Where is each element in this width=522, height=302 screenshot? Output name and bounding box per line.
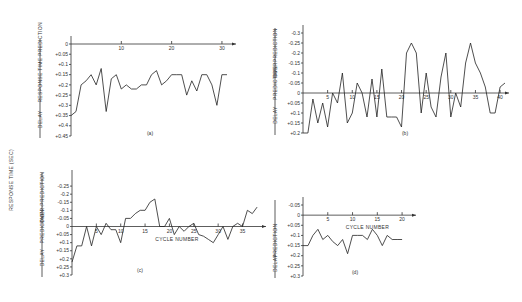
y-tick-label: -0.05: [289, 202, 301, 208]
shared-y-label: RESPONSE TIME (SEC): [8, 149, 14, 211]
y-tick-label: 0: [65, 41, 68, 47]
x-tick-label: 10: [119, 45, 125, 51]
panel-caption: (c): [137, 267, 143, 273]
y-tick-label: +0.1: [59, 239, 69, 245]
y-tick-label: +0.25: [55, 92, 68, 98]
region-label: PREDICTION: [39, 209, 45, 243]
x-axis-label: CYCLE NUMBER: [155, 236, 198, 242]
y-tick-label: +0.3: [58, 102, 68, 108]
region-label: DELAY: [272, 106, 278, 124]
y-tick-label: +0.05: [287, 100, 300, 106]
x-tick-label: 5: [326, 94, 329, 100]
y-tick-label: 0: [66, 223, 69, 229]
y-tick-label: -0.25: [289, 40, 301, 46]
y-tick-label: +0.2: [58, 82, 68, 88]
y-tick-label: +0.15: [56, 247, 69, 253]
y-tick-label: +0.2: [59, 256, 69, 262]
y-tick-label: +0.05: [55, 51, 68, 57]
panel-caption: (a): [147, 130, 153, 136]
y-tick-label: +0.2: [290, 252, 300, 258]
x-axis-arrow: [505, 92, 509, 95]
x-tick-label: 35: [473, 94, 479, 100]
region-label: DELAY: [272, 254, 278, 272]
y-tick-label: -0.15: [289, 60, 301, 66]
series-line-b: [303, 43, 505, 133]
y-tick-label: +0.25: [56, 264, 69, 270]
series-line-a: [71, 69, 227, 116]
y-tick-label: -0.2: [60, 191, 69, 197]
y-tick-label: +0.3: [59, 272, 69, 278]
y-tick-label: -0.1: [291, 70, 300, 76]
x-axis-label: CYCLE NUMBER: [346, 224, 389, 230]
y-tick-label: +0.1: [290, 110, 300, 116]
y-tick-label: +0.1: [58, 61, 68, 67]
y-tick-label: -0.15: [58, 199, 70, 205]
y-tick-label: -0.05: [58, 215, 70, 221]
y-tick-label: +0.45: [55, 133, 68, 139]
y-tick-label: 0: [297, 90, 300, 96]
x-tick-label: 25: [423, 94, 429, 100]
series-line-c: [72, 199, 257, 262]
y-tick-label: -0.1: [60, 207, 69, 213]
y-tick-label: +0.4: [58, 122, 68, 128]
x-axis-arrow: [412, 214, 416, 217]
panel-caption: (b): [402, 130, 408, 136]
region-label: RESPONSE TIME PREDICTION: [37, 22, 43, 103]
panel-d: -0.050+0.05+0.1+0.15+0.2+0.25+0.35101520…: [272, 197, 416, 279]
y-tick-label: +0.3: [290, 273, 300, 279]
y-tick-label: +0.25: [287, 263, 300, 269]
x-tick-label: 15: [142, 228, 148, 234]
y-tick-label: +0.15: [287, 120, 300, 126]
x-axis-arrow: [262, 225, 266, 228]
x-tick-label: 15: [375, 216, 381, 222]
figure-canvas: RESPONSE TIME (SEC) 0+0.05+0.1+0.15+0.2+…: [0, 0, 522, 302]
y-tick-label: +0.15: [287, 242, 300, 248]
x-tick-label: 5: [326, 216, 329, 222]
region-label: PREDICTION: [272, 223, 278, 257]
y-tick-label: -0.2: [291, 50, 300, 56]
region-label: PREDICTION: [272, 66, 278, 100]
x-tick-label: 10: [350, 216, 356, 222]
x-axis-arrow: [232, 43, 236, 46]
x-tick-label: 35: [240, 228, 246, 234]
y-tick-label: +0.1: [290, 232, 300, 238]
x-tick-label: 20: [167, 228, 173, 234]
x-tick-label: 20: [399, 216, 405, 222]
y-tick-label: -0.25: [58, 183, 70, 189]
y-tick-label: +0.15: [55, 71, 68, 77]
x-tick-label: 30: [219, 45, 225, 51]
panel-c: -0.25-0.2-0.15-0.1-0.050+0.05+0.1+0.15+0…: [39, 170, 266, 278]
panel-b: -0.3-0.25-0.2-0.15-0.1-0.050+0.05+0.1+0.…: [272, 25, 509, 136]
y-tick-label: -0.05: [289, 80, 301, 86]
panel-caption: (d): [352, 269, 358, 275]
y-tick-label: +0.05: [287, 222, 300, 228]
series-line-d: [303, 229, 402, 253]
y-tick-label: +0.05: [56, 231, 69, 237]
y-tick-label: -0.3: [291, 30, 300, 36]
y-tick-label: +0.35: [55, 112, 68, 118]
y-tick-label: 0: [297, 212, 300, 218]
y-tick-label: +0.2: [290, 130, 300, 136]
region-label: DELAY: [39, 248, 45, 266]
region-label: DELAY: [37, 110, 43, 128]
x-tick-label: 20: [169, 45, 175, 51]
panel-a: 0+0.05+0.1+0.15+0.2+0.25+0.3+0.35+0.4+0.…: [37, 22, 236, 139]
